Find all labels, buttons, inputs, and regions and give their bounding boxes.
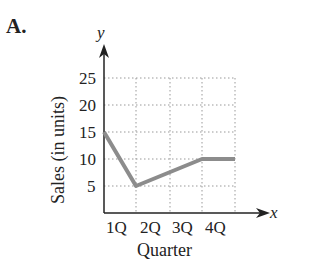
xtick-2q: 2Q <box>140 219 161 236</box>
xtick-3q: 3Q <box>172 219 193 236</box>
x-axis-symbol: x <box>270 204 278 221</box>
ytick-20: 20 <box>79 97 96 114</box>
xtick-4q: 4Q <box>205 219 226 236</box>
grid <box>104 78 235 213</box>
ytick-10: 10 <box>79 151 96 168</box>
xtick-1q: 1Q <box>106 219 127 236</box>
ytick-15: 15 <box>79 124 96 141</box>
y-axis-symbol: y <box>97 24 105 41</box>
axes <box>104 52 262 213</box>
y-axis-label: Sales (in units) <box>48 96 69 204</box>
x-axis-label: Quarter <box>137 241 192 259</box>
ytick-5: 5 <box>87 178 96 195</box>
ytick-25: 25 <box>79 70 96 87</box>
